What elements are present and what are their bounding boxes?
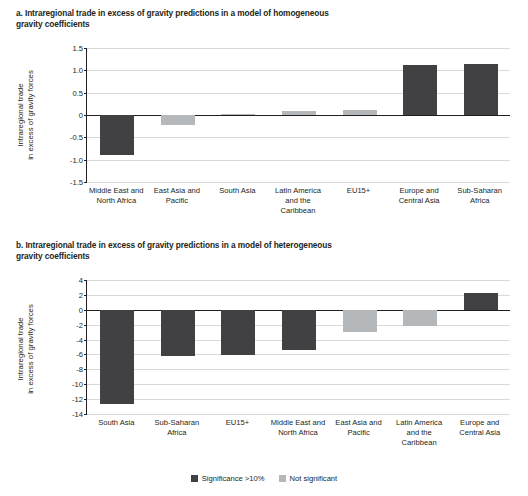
- y-tick-mark: [84, 384, 87, 385]
- gridline: [87, 182, 510, 183]
- y-tick-mark: [84, 414, 87, 415]
- gridline: [87, 295, 510, 296]
- gridline: [87, 70, 510, 71]
- x-axis-category-label: Europe and Central Asia: [449, 418, 510, 438]
- gridline: [87, 399, 510, 400]
- gridline: [87, 137, 510, 138]
- y-tick-mark: [84, 48, 87, 49]
- y-tick-label: -6: [76, 350, 83, 359]
- gridline: [87, 354, 510, 355]
- bar: [161, 310, 195, 356]
- gridline: [87, 160, 510, 161]
- figure-root: a. Intraregional trade in excess of grav…: [0, 0, 528, 496]
- y-tick-label: 1.5: [72, 44, 83, 53]
- gridline: [87, 280, 510, 281]
- y-tick-mark: [84, 325, 87, 326]
- y-tick-mark: [84, 280, 87, 281]
- gridline: [87, 384, 510, 385]
- bar: [282, 111, 316, 115]
- y-tick-label: 0.5: [72, 88, 83, 97]
- x-axis-category-label: South Asia: [86, 418, 147, 428]
- chart-panel-b: Intraregional tradein excess of gravity …: [0, 262, 528, 474]
- x-axis-category-label: South Asia: [207, 186, 268, 196]
- bar: [464, 64, 498, 115]
- panel-a-y-axis-label: Intraregional tradein excess of gravity …: [16, 50, 36, 180]
- bar: [343, 310, 377, 332]
- y-tick-mark: [84, 340, 87, 341]
- gridline: [87, 48, 510, 49]
- y-tick-label: 2: [79, 290, 83, 299]
- y-tick-label: -8: [76, 365, 83, 374]
- y-tick-mark: [84, 115, 87, 116]
- panel-a-title: a. Intraregional trade in excess of grav…: [16, 8, 346, 30]
- y-tick-label: -1.0: [70, 155, 83, 164]
- x-axis-category-label: Latin America and the Caribbean: [389, 418, 450, 448]
- bar: [282, 310, 316, 350]
- legend-item: Not significant: [279, 474, 338, 483]
- y-tick-mark: [84, 70, 87, 71]
- chart-legend: Significance >10%Not significant: [0, 474, 528, 483]
- legend-label: Not significant: [290, 474, 338, 483]
- x-axis-category-label: Europe and Central Asia: [389, 186, 450, 206]
- y-tick-mark: [84, 137, 87, 138]
- y-tick-mark: [84, 354, 87, 355]
- bar: [343, 110, 377, 115]
- y-tick-mark: [84, 399, 87, 400]
- x-axis-category-label: Middle East and North Africa: [268, 418, 329, 438]
- y-tick-label: -10: [72, 380, 83, 389]
- gridline: [87, 369, 510, 370]
- x-axis-category-label: East Asia and Pacific: [147, 186, 208, 206]
- bar: [464, 293, 498, 310]
- y-tick-mark: [84, 310, 87, 311]
- y-tick-label: 1.0: [72, 66, 83, 75]
- panel-b-title: b. Intraregional trade in excess of grav…: [16, 240, 346, 262]
- bar: [403, 310, 437, 326]
- y-tick-mark: [84, 160, 87, 161]
- x-axis-category-label: East Asia and Pacific: [328, 418, 389, 438]
- x-axis-category-label: Middle East and North Africa: [86, 186, 147, 206]
- legend-swatch: [191, 475, 198, 482]
- bar: [403, 65, 437, 115]
- gridline: [87, 414, 510, 415]
- y-tick-mark: [84, 369, 87, 370]
- y-tick-label: -0.5: [70, 133, 83, 142]
- x-axis-category-label: Latin America and the Caribbean: [268, 186, 329, 216]
- y-tick-label: 0: [79, 305, 83, 314]
- y-tick-mark: [84, 182, 87, 183]
- chart-panel-a: Intraregional tradein excess of gravity …: [0, 30, 528, 235]
- zero-axis-line: [87, 115, 510, 116]
- panel-b-plot-area: -14-12-10-8-6-4-2024: [86, 280, 510, 414]
- bar: [100, 310, 134, 405]
- y-tick-label: -4: [76, 335, 83, 344]
- y-tick-label: -14: [72, 410, 83, 419]
- legend-label: Significance >10%: [202, 474, 265, 483]
- panel-b-y-axis-label: Intraregional tradein excess of gravity …: [16, 284, 36, 414]
- y-tick-label: 4: [79, 276, 83, 285]
- bar: [161, 115, 195, 125]
- legend-swatch: [279, 475, 286, 482]
- x-axis-category-label: Sub-Saharan Africa: [449, 186, 510, 206]
- legend-item: Significance >10%: [191, 474, 265, 483]
- y-tick-label: -1.5: [70, 178, 83, 187]
- bar: [100, 115, 134, 155]
- y-tick-mark: [84, 93, 87, 94]
- bar: [221, 114, 255, 115]
- y-tick-label: -2: [76, 320, 83, 329]
- x-axis-category-label: Sub-Saharan Africa: [147, 418, 208, 438]
- y-tick-mark: [84, 295, 87, 296]
- y-tick-label: 0: [79, 111, 83, 120]
- y-tick-label: -12: [72, 395, 83, 404]
- gridline: [87, 93, 510, 94]
- panel-a-plot-area: -1.5-1.0-0.500.51.01.5: [86, 48, 510, 182]
- bar: [221, 310, 255, 355]
- x-axis-category-label: EU15+: [207, 418, 268, 428]
- x-axis-category-label: EU15+: [328, 186, 389, 196]
